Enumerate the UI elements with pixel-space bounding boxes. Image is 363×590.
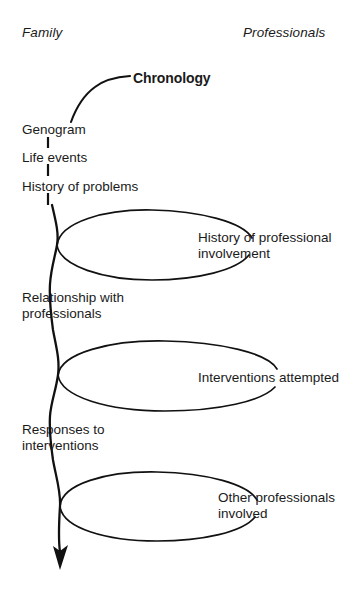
professional-node-other-professionals-involved: Other professionals involved <box>218 490 335 521</box>
column-heading-family: Family <box>22 25 62 41</box>
family-node-relationship-with-professionals: Relationship with professionals <box>22 290 124 321</box>
chronology-leader-curve <box>71 76 130 122</box>
professional-node-history-of-professional-involvement: History of professional involvement <box>198 230 332 261</box>
family-node-life-events: Life events <box>22 150 87 166</box>
family-node-responses-to-interventions: Responses to interventions <box>22 422 105 453</box>
chronology-diagram: Family Professionals Chronology Genogram… <box>0 0 363 590</box>
family-node-genogram: Genogram <box>22 122 86 138</box>
chronology-title: Chronology <box>133 70 211 87</box>
family-node-history-of-problems: History of problems <box>22 179 138 195</box>
professional-node-interventions-attempted: Interventions attempted <box>198 370 339 386</box>
column-heading-professionals: Professionals <box>243 25 325 41</box>
